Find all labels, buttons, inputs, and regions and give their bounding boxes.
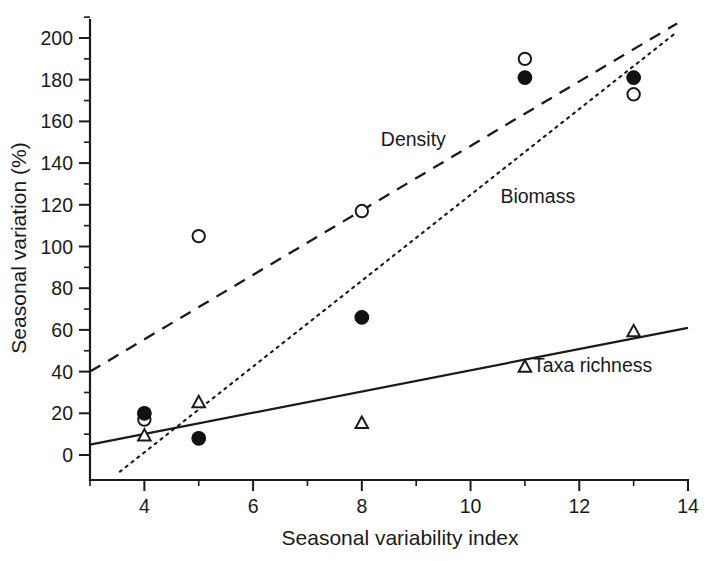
data-point-density	[356, 205, 368, 217]
x-tick-label: 8	[356, 495, 367, 517]
data-point-biomass	[138, 407, 152, 421]
regression-line-taxa-richness	[90, 328, 688, 445]
y-tick-label: 180	[40, 69, 73, 91]
data-point-biomass	[192, 432, 206, 446]
y-tick-label: 140	[40, 152, 73, 174]
y-tick-label: 20	[51, 402, 73, 424]
data-point-taxa-richness	[192, 396, 205, 408]
x-tick-label: 14	[677, 495, 699, 517]
data-point-biomass	[518, 71, 532, 85]
y-tick-label: 80	[51, 277, 73, 299]
series-annotations: DensityBiomassTaxa richness	[381, 128, 653, 375]
data-point-biomass	[355, 311, 369, 325]
y-tick-label: 60	[51, 319, 73, 341]
x-axis-title: Seasonal variability index	[282, 526, 519, 549]
axis-ticks	[79, 17, 688, 491]
series-label-taxa-richness: Taxa richness	[533, 354, 652, 376]
regression-lines	[90, 23, 688, 471]
data-point-biomass	[627, 71, 641, 85]
x-tick-label: 4	[139, 495, 150, 517]
x-tick-label: 6	[248, 495, 259, 517]
chart-figure: 468101214020406080100120140160180200 Den…	[0, 0, 706, 561]
y-tick-label: 160	[40, 110, 73, 132]
x-tick-label: 10	[460, 495, 482, 517]
data-point-taxa-richness	[519, 360, 532, 372]
data-point-taxa-richness	[627, 325, 640, 337]
axis-tick-labels: 468101214020406080100120140160180200	[40, 27, 699, 517]
x-tick-label: 12	[568, 495, 590, 517]
series-label-density: Density	[381, 128, 446, 150]
y-tick-label: 120	[40, 194, 73, 216]
y-tick-label: 0	[62, 444, 73, 466]
data-point-taxa-richness	[356, 417, 369, 429]
y-tick-label: 100	[40, 236, 73, 258]
data-point-density	[627, 88, 639, 100]
scatter-plot: 468101214020406080100120140160180200 Den…	[0, 0, 706, 561]
y-tick-label: 40	[51, 361, 73, 383]
series-label-biomass: Biomass	[500, 185, 575, 207]
y-tick-label: 200	[40, 27, 73, 49]
data-point-density	[193, 230, 205, 242]
axes	[90, 20, 688, 480]
regression-line-density	[90, 23, 677, 371]
y-axis-title: Seasonal variation (%)	[7, 142, 30, 353]
data-point-density	[519, 53, 531, 65]
